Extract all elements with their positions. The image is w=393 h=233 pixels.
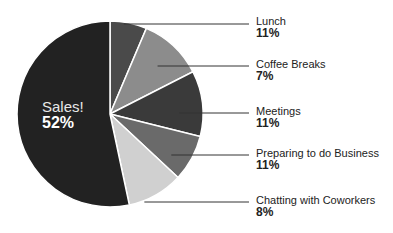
legend-lunch-pct: 11% — [256, 27, 286, 39]
legend-meetings: Meetings 11% — [256, 105, 301, 129]
legend-coffee-pct: 7% — [256, 70, 326, 82]
legend-preparing-pct: 11% — [256, 159, 379, 171]
sales-label: Sales! 52% — [42, 99, 84, 131]
legend-chatting-name: Chatting with Coworkers — [256, 194, 375, 206]
legend-coffee-breaks: Coffee Breaks 7% — [256, 58, 326, 82]
sales-name: Sales! — [42, 99, 84, 115]
legend-lunch: Lunch 11% — [256, 15, 286, 39]
legend-chatting-pct: 8% — [256, 206, 375, 218]
legend-preparing: Preparing to do Business 11% — [256, 147, 379, 171]
legend-meetings-pct: 11% — [256, 117, 301, 129]
sales-pct: 52% — [42, 115, 84, 131]
legend-chatting: Chatting with Coworkers 8% — [256, 194, 375, 218]
